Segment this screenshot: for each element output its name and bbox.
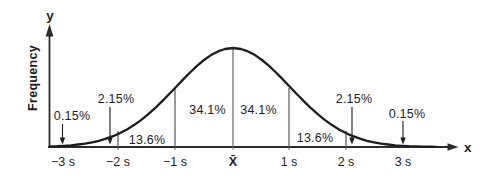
tick-label-minus-1s: −1 s <box>163 155 187 169</box>
segment-label-right-tail: 0.15% <box>389 107 425 121</box>
segment-label-left-13-6: 13.6% <box>129 133 165 147</box>
x-axis-symbol: x <box>464 140 472 155</box>
tick-label-minus-2s: −2 s <box>106 155 130 169</box>
tick-label-mean: X̄ <box>229 155 238 169</box>
segment-label-left-tail: 0.15% <box>54 109 90 123</box>
pointer-arrow-right-tail-head-icon <box>400 138 405 145</box>
segment-label-left-2-15: 2.15% <box>98 92 134 106</box>
pointer-arrow-left-tail-head-icon <box>60 138 65 145</box>
y-axis-title: Frequency <box>26 45 40 111</box>
segment-label-left-34-1: 34.1% <box>189 103 225 117</box>
y-axis-symbol: y <box>46 8 54 23</box>
pointer-arrow-right-tail <box>400 121 405 145</box>
x-axis-arrow-icon <box>448 143 459 150</box>
segment-label-right-13-6: 13.6% <box>297 131 333 145</box>
pointer-arrow-left-2-15-head-icon <box>107 138 112 145</box>
pointer-arrow-left-tail <box>60 124 65 145</box>
bell-curve-chart: y Frequency x 0.15% <box>0 0 498 177</box>
segment-label-right-2-15: 2.15% <box>336 92 372 106</box>
normal-distribution-figure: y Frequency x 0.15% <box>0 0 498 177</box>
pointer-arrow-left-2-15 <box>107 107 112 145</box>
segment-label-right-34-1: 34.1% <box>240 103 276 117</box>
tick-label-plus-3s: 3 s <box>395 155 412 169</box>
tick-label-minus-3s: −3 s <box>51 155 75 169</box>
pointer-arrow-right-2-15-head-icon <box>349 138 354 145</box>
tick-label-plus-1s: 1 s <box>281 155 298 169</box>
pointer-arrow-right-2-15 <box>349 107 354 145</box>
tick-label-plus-2s: 2 s <box>338 155 355 169</box>
y-axis-arrow-icon <box>46 24 54 37</box>
